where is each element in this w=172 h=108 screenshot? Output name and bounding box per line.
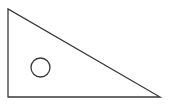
geometry-figure: Right triangle with inscribed circle (0, 0, 172, 108)
